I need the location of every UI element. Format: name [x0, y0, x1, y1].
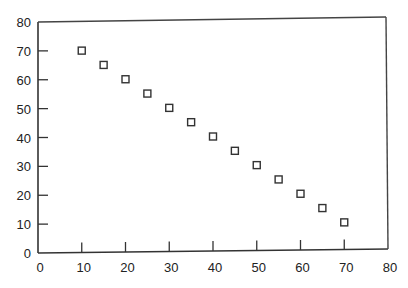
y-tick-label: 20 [17, 188, 31, 203]
x-tick-label: 0 [36, 260, 43, 275]
x-tick-label: 30 [164, 260, 178, 275]
x-tick-label: 40 [208, 260, 222, 275]
data-point-marker [231, 147, 238, 154]
y-tick-label: 50 [17, 102, 31, 117]
y-tick-label: 40 [17, 131, 31, 146]
x-axis-ticks: 01020304050607080 [36, 240, 397, 276]
y-tick-label: 70 [17, 44, 31, 59]
data-point-marker [297, 190, 304, 197]
scatter-chart: 01020304050607080 01020304050607080 [0, 0, 408, 288]
y-tick-label: 60 [17, 73, 31, 88]
data-point-marker [166, 104, 173, 111]
data-point-marker [100, 61, 107, 68]
y-axis-ticks: 01020304050607080 [17, 15, 48, 261]
data-point-marker [341, 219, 348, 226]
data-point-marker [122, 76, 129, 83]
data-point-marker [210, 133, 217, 140]
data-point-marker [144, 90, 151, 97]
x-tick-label: 20 [120, 260, 134, 275]
y-tick-label: 0 [24, 246, 31, 261]
x-tick-label: 50 [252, 260, 266, 275]
data-points [78, 47, 348, 226]
x-tick-label: 60 [295, 260, 309, 275]
data-point-marker [275, 176, 282, 183]
y-tick-label: 30 [17, 159, 31, 174]
data-point-marker [78, 47, 85, 54]
data-point-marker [188, 119, 195, 126]
right-border [386, 17, 388, 249]
y-tick-label: 80 [17, 15, 31, 30]
data-point-marker [319, 205, 326, 212]
top-border [38, 17, 386, 22]
x-tick-label: 80 [383, 260, 397, 275]
x-tick-label: 70 [339, 260, 353, 275]
y-tick-label: 10 [17, 217, 31, 232]
x-tick-label: 10 [77, 260, 91, 275]
data-point-marker [253, 162, 260, 169]
